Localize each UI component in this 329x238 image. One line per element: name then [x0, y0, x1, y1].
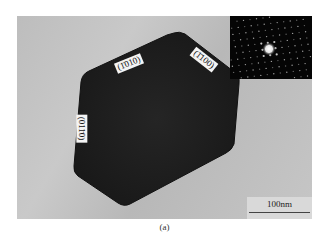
diffraction-pattern-inset [230, 16, 312, 79]
tem-micrograph: (1̄010) (1̄100) (011̄0) 100nm [17, 16, 312, 219]
scale-bar-label: 100nm [247, 199, 312, 209]
scale-bar-line [249, 212, 310, 213]
tem-figure: (1̄010) (1̄100) (011̄0) 100nm [0, 0, 329, 238]
figure-caption: (a) [0, 222, 329, 232]
facet-label-0110: (011̄0) [76, 115, 87, 143]
diffraction-spots [230, 16, 312, 79]
scale-bar: 100nm [247, 197, 312, 219]
